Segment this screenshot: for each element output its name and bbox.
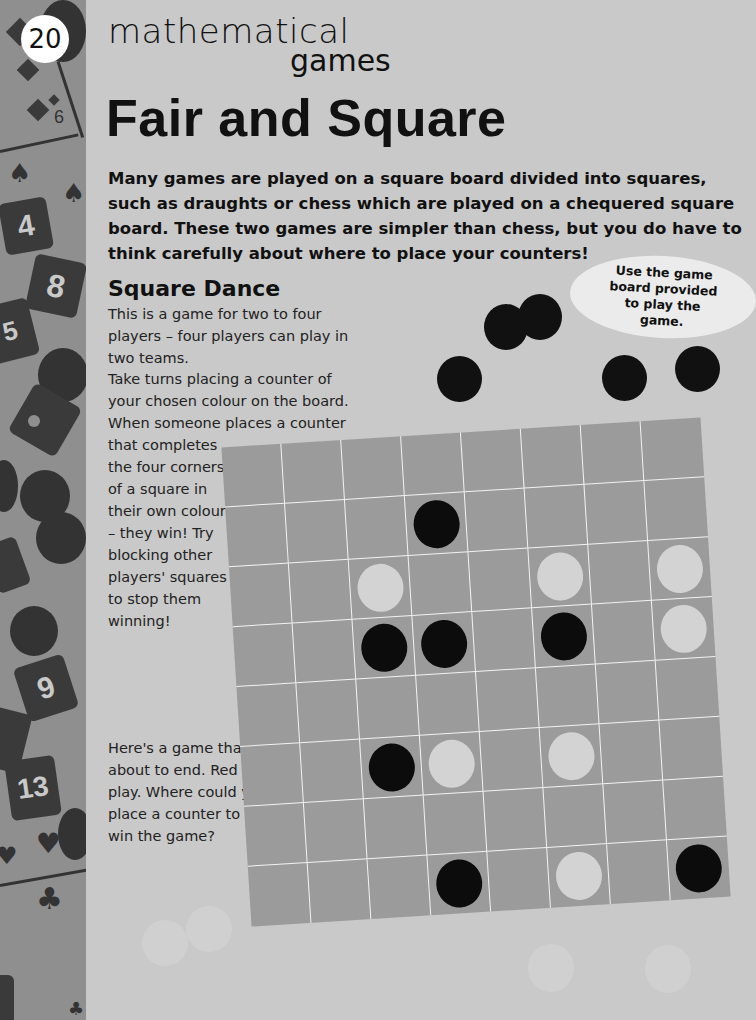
- board-cell[interactable]: [300, 739, 364, 803]
- board-cell[interactable]: [285, 500, 349, 564]
- playing-card-6: 6: [48, 106, 70, 128]
- board-cell[interactable]: [405, 492, 469, 556]
- page-title: Fair and Square: [106, 92, 507, 144]
- board-cell[interactable]: [308, 859, 372, 923]
- board-cell[interactable]: [401, 432, 465, 496]
- board-cell[interactable]: [409, 552, 473, 616]
- board-cell[interactable]: [663, 777, 727, 841]
- spade-icon: ♠: [8, 160, 31, 186]
- dice-pip: [28, 415, 40, 427]
- heart-icon: ♥: [0, 844, 18, 868]
- board-cell[interactable]: [581, 421, 645, 485]
- board-cell[interactable]: [525, 485, 589, 549]
- board-cell[interactable]: [341, 436, 405, 500]
- note-text: Use the game board provided to play the …: [601, 262, 724, 332]
- board-cell[interactable]: [607, 840, 671, 904]
- board-cell[interactable]: [480, 728, 544, 792]
- club-icon: ♣: [68, 1000, 84, 1018]
- black-counter: [359, 622, 408, 673]
- white-counter: [535, 551, 584, 602]
- board-cell[interactable]: [536, 664, 600, 728]
- board-cell[interactable]: [588, 541, 652, 605]
- loose-black-counter: [437, 356, 482, 402]
- board-cell[interactable]: [592, 601, 656, 665]
- card-edge-line: [0, 133, 79, 153]
- page-number-badge: 20: [21, 15, 69, 63]
- board-cell[interactable]: [532, 605, 596, 669]
- board-cell[interactable]: [424, 792, 488, 856]
- white-counter: [546, 730, 595, 781]
- white-counter: [427, 738, 476, 789]
- board-cell[interactable]: [487, 848, 551, 912]
- series-subtitle: games: [290, 46, 391, 76]
- board-cell[interactable]: [304, 799, 368, 863]
- board-cell[interactable]: [368, 855, 432, 919]
- board-cell[interactable]: [360, 736, 424, 800]
- board-cell[interactable]: [667, 837, 731, 901]
- dice-pip: [72, 435, 84, 447]
- board-cell[interactable]: [584, 481, 648, 545]
- black-counter: [367, 742, 416, 793]
- intro-paragraph: Many games are played on a square board …: [108, 166, 748, 266]
- board-cell[interactable]: [484, 788, 548, 852]
- board-cell[interactable]: [596, 661, 660, 725]
- board-cell[interactable]: [352, 616, 416, 680]
- board-cell[interactable]: [427, 852, 491, 916]
- board-cell[interactable]: [345, 496, 409, 560]
- board-cell[interactable]: [461, 429, 525, 493]
- dice-icon: [0, 536, 32, 595]
- board-cell[interactable]: [465, 489, 529, 553]
- board-cell[interactable]: [420, 732, 484, 796]
- board-cell[interactable]: [652, 597, 716, 661]
- board-cell[interactable]: [356, 676, 420, 740]
- board-cell[interactable]: [296, 680, 360, 744]
- counter-decoration: [10, 606, 58, 656]
- board-cell[interactable]: [540, 724, 604, 788]
- board-cell[interactable]: [248, 863, 312, 927]
- board-cell[interactable]: [289, 560, 353, 624]
- board-cell[interactable]: [528, 545, 592, 609]
- white-counter: [554, 851, 603, 902]
- board-cell[interactable]: [416, 672, 480, 736]
- white-counter: [356, 562, 405, 613]
- black-counter: [419, 618, 468, 669]
- game-board[interactable]: [221, 417, 730, 926]
- faded-counter: [186, 906, 232, 952]
- board-cell[interactable]: [221, 444, 285, 508]
- board-cell[interactable]: [225, 504, 289, 568]
- board-cell[interactable]: [648, 537, 712, 601]
- board-cell[interactable]: [476, 668, 540, 732]
- card-shadow: [0, 975, 14, 1020]
- counter-decoration: [58, 808, 86, 860]
- board-cell[interactable]: [603, 780, 667, 844]
- rules-paragraph-players: This is a game for two to four players –…: [108, 303, 368, 369]
- board-cell[interactable]: [543, 784, 607, 848]
- counter-decoration: [0, 460, 18, 512]
- loose-black-counter: [675, 346, 720, 392]
- black-counter: [674, 843, 723, 894]
- board-cell[interactable]: [244, 803, 308, 867]
- board-cell[interactable]: [547, 844, 611, 908]
- board-cell[interactable]: [656, 657, 720, 721]
- spade-icon: ♠: [62, 180, 85, 206]
- board-cell[interactable]: [349, 556, 413, 620]
- section-title: Square Dance: [108, 278, 280, 300]
- board-cell[interactable]: [644, 477, 708, 541]
- board-cell[interactable]: [468, 548, 532, 612]
- board-cell[interactable]: [281, 440, 345, 504]
- board-cell[interactable]: [600, 721, 664, 785]
- counter-decoration: [36, 512, 86, 564]
- board-cell[interactable]: [240, 743, 304, 807]
- white-counter: [655, 543, 704, 594]
- board-cell[interactable]: [229, 564, 293, 628]
- board-cell[interactable]: [641, 417, 705, 481]
- board-cell[interactable]: [364, 796, 428, 860]
- board-cell[interactable]: [412, 612, 476, 676]
- board-cell[interactable]: [521, 425, 585, 489]
- board-cell[interactable]: [233, 623, 297, 687]
- board-cell[interactable]: [472, 608, 536, 672]
- board-cell[interactable]: [293, 620, 357, 684]
- playing-card-13: 13: [4, 755, 62, 821]
- board-cell[interactable]: [236, 683, 300, 747]
- board-cell[interactable]: [659, 717, 723, 781]
